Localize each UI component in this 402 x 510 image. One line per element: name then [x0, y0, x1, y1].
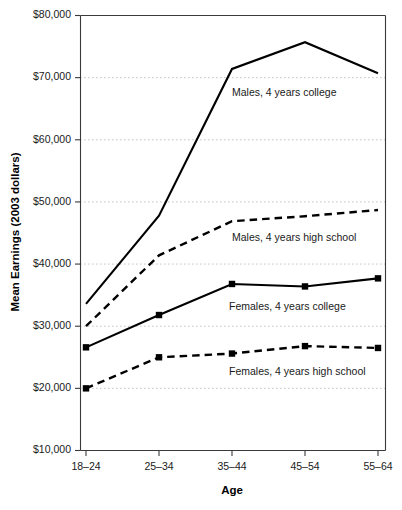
x-tick-label: 25–34	[144, 460, 173, 472]
data-point-marker	[156, 312, 162, 318]
x-tick-label-group: 18–2425–3435–4445–5455–64	[71, 460, 392, 472]
y-tick-label: $80,000	[33, 8, 71, 20]
y-axis-title: Mean Earnings (2003 dollars)	[9, 152, 21, 311]
data-point-marker	[156, 354, 162, 360]
series-label-2: Females, 4 years college	[229, 300, 346, 312]
data-point-marker	[302, 283, 308, 289]
data-point-marker	[83, 385, 89, 391]
series-annotation-group: Males, 4 years collegeMales, 4 years hig…	[229, 86, 366, 377]
series-label-0: Males, 4 years college	[232, 86, 337, 98]
y-tick-label: $40,000	[33, 257, 71, 269]
y-tick-mark-group	[75, 16, 81, 451]
x-tick-label: 35–44	[217, 460, 246, 472]
y-tick-label-group: $10,000$20,000$30,000$40,000$50,000$60,0…	[33, 8, 71, 455]
y-tick-label: $20,000	[33, 381, 71, 393]
y-tick-label: $70,000	[33, 70, 71, 82]
data-point-marker	[229, 350, 235, 356]
x-tick-label: 55–64	[363, 460, 392, 472]
series-line-2	[86, 278, 378, 347]
chart-container: $10,000$20,000$30,000$40,000$50,000$60,0…	[0, 0, 402, 510]
y-tick-label: $60,000	[33, 133, 71, 145]
data-point-marker	[302, 343, 308, 349]
data-point-marker	[83, 344, 89, 350]
series-label-3: Females, 4 years high school	[229, 365, 366, 377]
y-tick-label: $30,000	[33, 319, 71, 331]
y-tick-label: $50,000	[33, 195, 71, 207]
data-point-marker	[375, 345, 381, 351]
series-label-1: Males, 4 years high school	[232, 231, 356, 243]
x-tick-label: 18–24	[71, 460, 100, 472]
earnings-by-age-line-chart: $10,000$20,000$30,000$40,000$50,000$60,0…	[0, 0, 402, 510]
x-axis-title: Age	[221, 484, 243, 496]
x-tick-label: 45–54	[290, 460, 319, 472]
x-tick-mark-group	[86, 451, 378, 457]
series-line-0	[86, 42, 378, 304]
y-tick-label: $10,000	[33, 443, 71, 455]
data-point-marker	[375, 275, 381, 281]
data-point-marker	[229, 281, 235, 287]
